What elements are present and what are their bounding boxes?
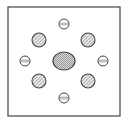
striped-circle-left: [20, 56, 30, 66]
layout-diagram: [0, 0, 128, 123]
striped-circle-top: [59, 19, 69, 29]
hatched-circle: [32, 74, 46, 88]
center-ellipse: [53, 52, 75, 70]
hatched-circle: [81, 74, 95, 88]
center-crosshatch-ellipse: [53, 52, 75, 70]
hatched-circle: [81, 33, 95, 47]
hatched-circle: [32, 33, 46, 47]
striped-circle-bottom: [59, 93, 69, 103]
striped-circle-right: [98, 56, 108, 66]
